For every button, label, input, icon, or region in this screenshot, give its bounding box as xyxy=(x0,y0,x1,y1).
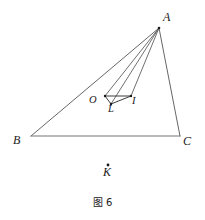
vertex-label-o: O xyxy=(89,95,97,106)
point-A xyxy=(158,27,161,30)
segment-CA xyxy=(159,28,180,136)
segment-AB xyxy=(31,28,159,136)
vertex-label-b: B xyxy=(13,134,20,146)
segment-AL xyxy=(111,28,159,104)
vertex-label-i: I xyxy=(132,96,136,107)
vertex-label-l: L xyxy=(108,104,114,115)
point-O xyxy=(104,95,106,97)
segment-AO xyxy=(105,28,159,96)
vertex-label-a: A xyxy=(163,11,170,23)
vertex-label-k: K xyxy=(103,166,111,178)
segment-AI xyxy=(131,28,159,96)
figure-caption: 图 6 xyxy=(0,194,205,209)
vertex-label-c: C xyxy=(183,135,191,147)
geometry-drawing xyxy=(0,0,205,220)
geometry-figure: A B C O L I K 图 6 xyxy=(0,0,205,220)
